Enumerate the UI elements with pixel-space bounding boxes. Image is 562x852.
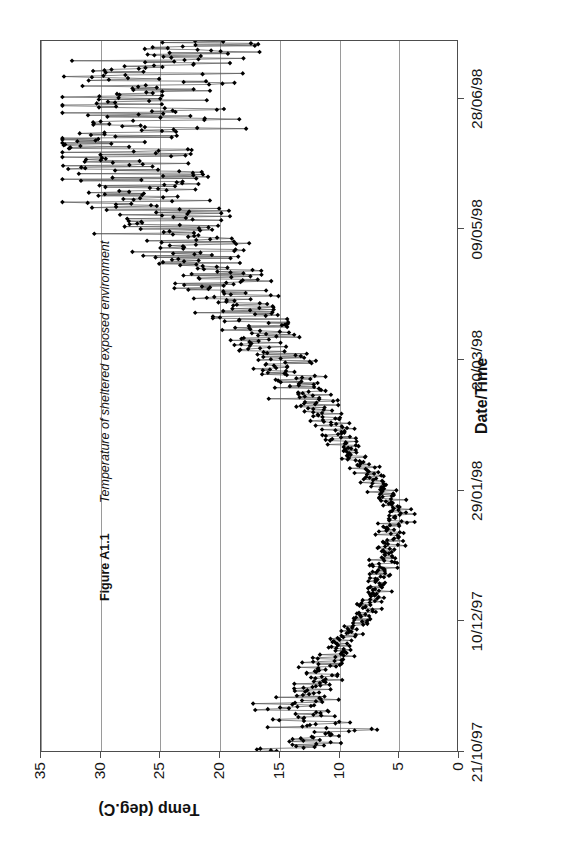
y-axis-tick-label: 20: [210, 762, 228, 779]
figure-caption: Figure A1.1 Temperature of sheltered exp…: [95, 171, 121, 601]
x-axis-tick: [458, 359, 464, 360]
y-axis-tick: [458, 752, 459, 758]
x-axis-tick: [458, 490, 464, 491]
x-axis-tick: [458, 620, 464, 621]
y-axis-tick: [100, 752, 101, 758]
caption-text: Temperature of sheltered exposed environ…: [98, 241, 112, 503]
y-axis-title: Temp (deg.C): [49, 800, 249, 818]
x-axis-tick: [458, 228, 464, 229]
y-axis-tick: [219, 752, 220, 758]
x-axis-tick: [458, 751, 464, 752]
y-axis-tick: [159, 752, 160, 758]
y-axis-tick-label: 35: [31, 762, 49, 779]
figure-page: 05101520253035 Temp (deg.C) 21/10/9710/1…: [0, 0, 562, 852]
y-axis-tick-label: 5: [389, 762, 407, 771]
y-axis-tick-label: 0: [449, 762, 467, 771]
y-axis-tick: [279, 752, 280, 758]
y-axis-tick-label: 15: [270, 762, 288, 779]
y-axis-tick: [339, 752, 340, 758]
x-axis-tick: [458, 98, 464, 99]
y-axis-tick-label: 30: [91, 762, 109, 779]
y-axis-tick: [398, 752, 399, 758]
y-axis-tick: [40, 752, 41, 758]
x-axis-title: Date/Time: [473, 40, 491, 752]
y-axis-tick-label: 25: [150, 762, 168, 779]
y-axis-tick-label: 10: [330, 762, 348, 779]
caption-number: Figure A1.1: [98, 533, 112, 601]
